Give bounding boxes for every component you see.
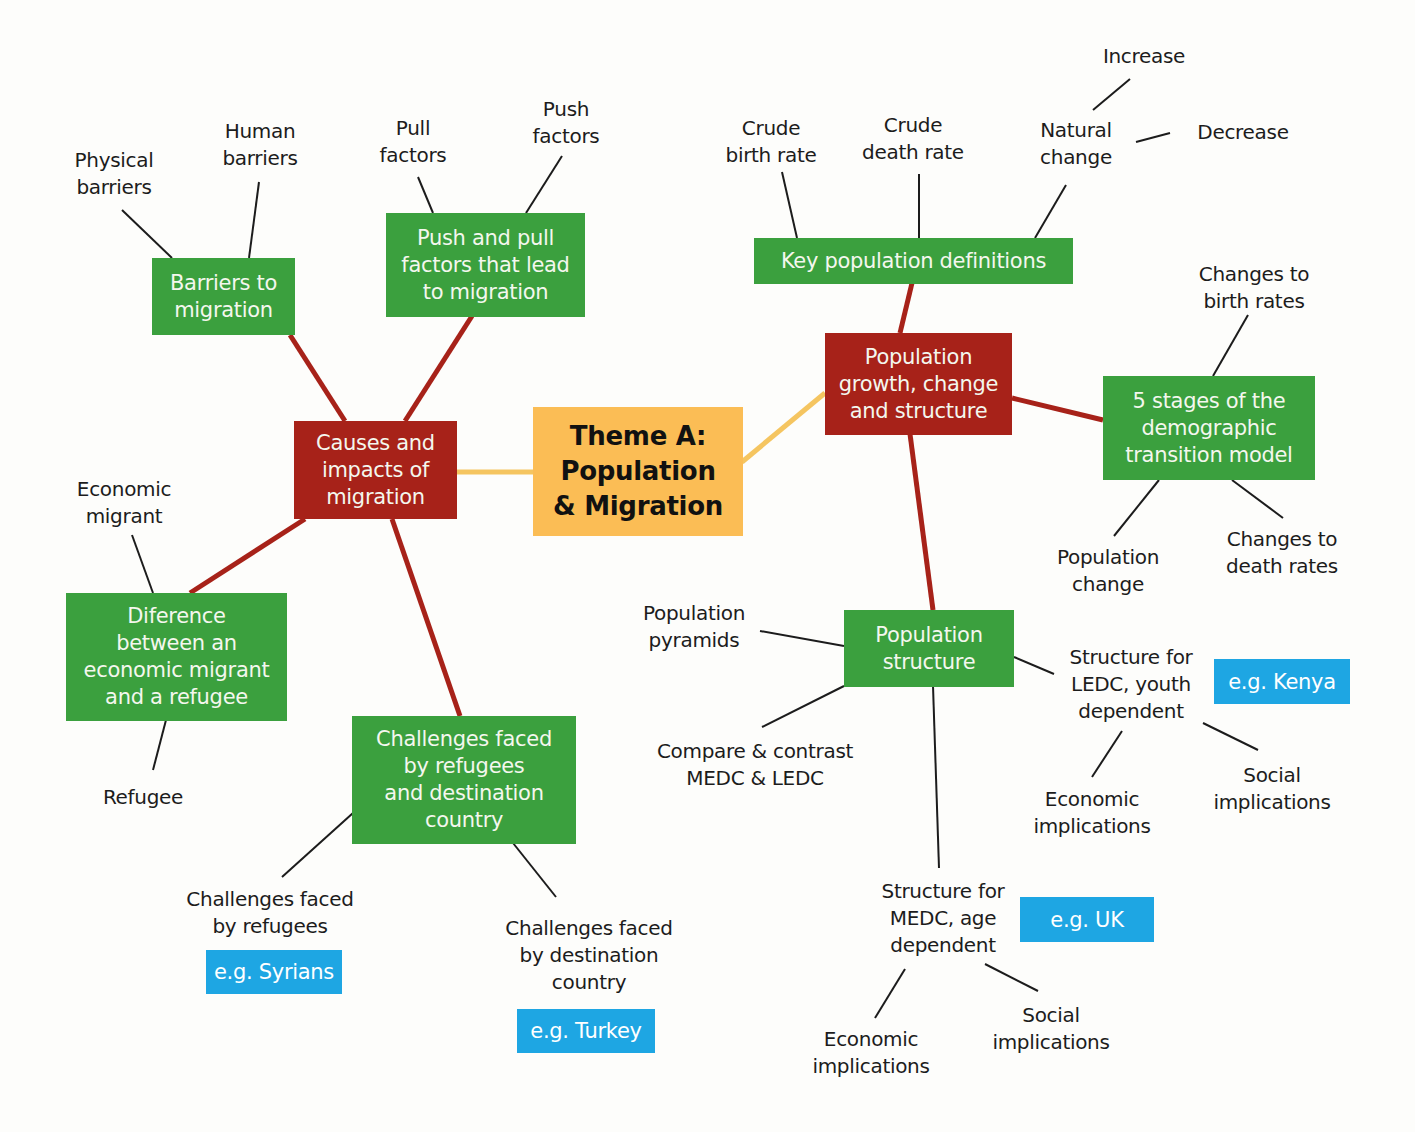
node-key-population-definitions[interactable]: Key population definitions: [754, 238, 1073, 284]
example-tag-uk: e.g. UK: [1020, 897, 1154, 942]
leaf-structure-medc: Structure for MEDC, age dependent: [882, 878, 1005, 959]
leaf-crude-death-rate: Crude death rate: [862, 112, 964, 166]
node-population-structure[interactable]: Population structure: [844, 610, 1014, 687]
leaf-challenges-destination: Challenges faced by destination country: [505, 915, 672, 996]
leaf-increase: Increase: [1103, 43, 1185, 70]
connector-migration-pushpull: [405, 316, 472, 421]
node-challenges-refugees-destination[interactable]: Challenges faced by refugees and destina…: [352, 716, 576, 844]
leaf-refugee: Refugee: [103, 784, 183, 811]
connector-migration-challenges: [392, 519, 460, 716]
example-tag-kenya: e.g. Kenya: [1214, 659, 1350, 704]
node-push-pull-factors[interactable]: Push and pull factors that lead to migra…: [386, 213, 585, 317]
connector-center-population: [742, 393, 825, 462]
leaf-population-pyramids: Population pyramids: [643, 600, 745, 654]
connector-population-dtm: [1012, 398, 1103, 420]
leaf-medc-economic-implications: Economic implications: [812, 1026, 929, 1080]
leaf-compare-medc-ledc: Compare & contrast MEDC & LEDC: [657, 738, 853, 792]
leaf-natural-change: Natural change: [1040, 117, 1112, 171]
leaf-challenges-refugees: Challenges faced by refugees: [186, 886, 353, 940]
leaf-pull-factors: Pull factors: [380, 115, 447, 169]
leaf-population-change: Population change: [1057, 544, 1159, 598]
leaf-physical-barriers: Physical barriers: [75, 147, 154, 201]
central-topic[interactable]: Theme A: Population & Migration: [533, 407, 743, 536]
leaf-changes-birth-rates: Changes to birth rates: [1199, 261, 1309, 315]
node-economic-migrant-vs-refugee[interactable]: Diference between an economic migrant an…: [66, 593, 287, 721]
leaf-crude-birth-rate: Crude birth rate: [726, 115, 817, 169]
branch-causes-impacts-migration[interactable]: Causes and impacts of migration: [294, 421, 457, 519]
branch-population-growth-change-structure[interactable]: Population growth, change and structure: [825, 333, 1012, 435]
leaf-ledc-social-implications: Social implications: [1213, 762, 1330, 816]
leaf-economic-migrant: Economic migrant: [77, 476, 171, 530]
leaf-changes-death-rates: Changes to death rates: [1226, 526, 1338, 580]
example-tag-turkey: e.g. Turkey: [517, 1009, 655, 1053]
mind-map: Theme A: Population & Migration Causes a…: [0, 0, 1415, 1132]
node-demographic-transition-model[interactable]: 5 stages of the demographic transition m…: [1103, 376, 1315, 480]
connector-population-definitions: [900, 283, 912, 333]
leaf-human-barriers: Human barriers: [222, 118, 297, 172]
leaf-decrease: Decrease: [1197, 119, 1288, 146]
connector-migration-barriers: [290, 335, 345, 421]
connector-population-structure: [910, 434, 933, 610]
connector-migration-difference: [190, 519, 305, 593]
leaf-push-factors: Push factors: [533, 96, 600, 150]
leaf-structure-ledc: Structure for LEDC, youth dependent: [1070, 644, 1193, 725]
leaf-ledc-economic-implications: Economic implications: [1033, 786, 1150, 840]
example-tag-syrians: e.g. Syrians: [206, 950, 342, 994]
leaf-medc-social-implications: Social implications: [992, 1002, 1109, 1056]
node-barriers-to-migration[interactable]: Barriers to migration: [152, 258, 295, 335]
